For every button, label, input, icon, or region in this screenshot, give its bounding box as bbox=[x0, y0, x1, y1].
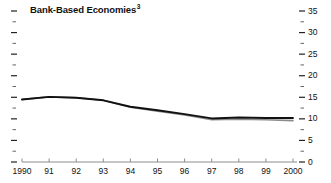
y-axis-tick-label: 15 bbox=[308, 93, 317, 102]
y-axis-tick-label: 0 bbox=[308, 158, 313, 167]
chart-plot-area bbox=[0, 0, 331, 183]
y-axis-tick-label: 5 bbox=[308, 136, 313, 145]
x-axis-tick-label: 99 bbox=[261, 167, 270, 176]
y-axis-tick-label: 30 bbox=[308, 28, 317, 37]
y-axis-tick-label: 25 bbox=[308, 50, 317, 59]
x-axis-tick-label: 94 bbox=[126, 167, 135, 176]
data-series-layer bbox=[22, 97, 293, 121]
x-axis-tick-label: 97 bbox=[207, 167, 216, 176]
chart-container: Bank-Based Economies3 05101520253035 199… bbox=[0, 0, 331, 183]
right-axis-ticks bbox=[299, 11, 305, 162]
x-axis-tick-label: 92 bbox=[71, 167, 80, 176]
chart-title-text: Bank-Based Economies bbox=[30, 4, 136, 15]
y-axis-tick-label: 10 bbox=[308, 114, 317, 123]
y-axis-tick-label: 20 bbox=[308, 71, 317, 80]
y-axis-tick-label: 35 bbox=[308, 7, 317, 16]
x-axis-tick-label: 2000 bbox=[284, 167, 303, 176]
x-axis-tick-label: 93 bbox=[99, 167, 108, 176]
chart-title-footnote-marker: 3 bbox=[137, 3, 141, 10]
series-line-series-dark bbox=[22, 97, 293, 119]
left-axis-ticks bbox=[11, 11, 17, 162]
x-axis-tick-label: 1990 bbox=[13, 167, 32, 176]
x-axis-tick-label: 96 bbox=[180, 167, 189, 176]
x-axis-ticks bbox=[22, 159, 293, 163]
x-axis-tick-label: 95 bbox=[153, 167, 162, 176]
x-axis-tick-label: 91 bbox=[44, 167, 53, 176]
x-axis-tick-label: 98 bbox=[234, 167, 243, 176]
chart-title: Bank-Based Economies3 bbox=[30, 4, 140, 15]
